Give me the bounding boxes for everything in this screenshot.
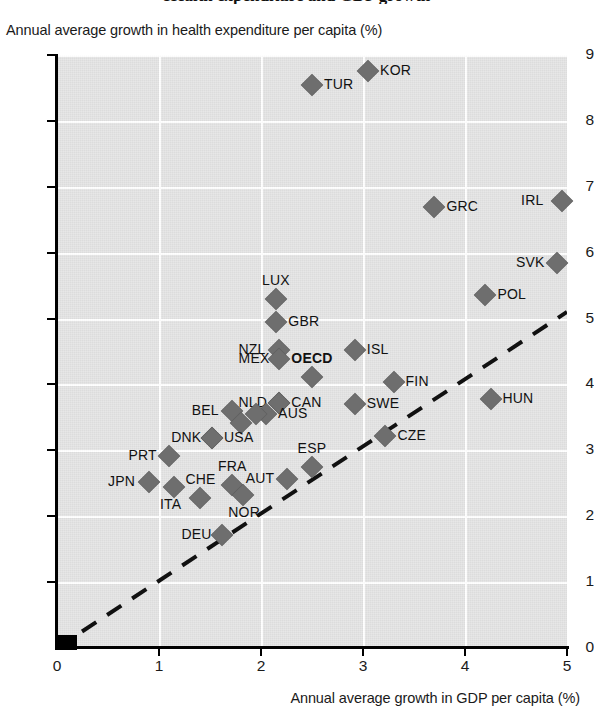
y-axis-tick (47, 515, 56, 517)
data-point-label-swe: SWE (367, 395, 400, 411)
x-axis-tick (260, 647, 262, 656)
y-axis-tick-label: 4 (552, 374, 594, 392)
data-point-label-esp: ESP (298, 440, 327, 456)
figure-scatter-health-gdp: Health expenditure and GDP growth Annual… (0, 0, 594, 720)
gridline-horizontal (57, 253, 567, 255)
gridline-horizontal (57, 582, 567, 584)
y-axis-tick-label: 1 (552, 572, 594, 590)
gridline-vertical (465, 55, 467, 648)
x-axis-tick (158, 647, 160, 656)
data-point-label-aut: AUT (246, 470, 275, 486)
y-axis-tick (47, 581, 56, 583)
y-axis-tick-label: 2 (552, 506, 594, 524)
x-axis-tick-label: 3 (343, 657, 383, 675)
data-point-label-cze: CZE (397, 427, 426, 443)
x-axis-tick (464, 647, 466, 656)
data-point-label-aus: AUS (278, 405, 307, 421)
y-axis-tick-label: 5 (552, 309, 594, 327)
data-point-label-jpn: JPN (108, 473, 135, 489)
data-point-label-lux: LUX (262, 272, 290, 288)
x-axis-tick-label: 4 (445, 657, 485, 675)
y-axis-tick (47, 120, 56, 122)
data-point-label-ita: ITA (160, 496, 181, 512)
y-axis-line (55, 54, 58, 649)
data-point-label-prt: PRT (128, 447, 156, 463)
gridline-horizontal (57, 55, 567, 57)
data-point-label-fin: FIN (406, 373, 429, 389)
x-axis-title: Annual average growth in GDP per capita … (0, 690, 580, 706)
y-axis-tick-label: 0 (552, 638, 594, 656)
y-axis-tick (47, 252, 56, 254)
x-axis-line (55, 646, 569, 649)
data-point-label-gbr: GBR (288, 313, 319, 329)
data-point-label-tur: TUR (324, 76, 353, 92)
data-point-label-deu: DEU (181, 526, 211, 542)
data-point-label-pol: POL (497, 286, 526, 302)
y-axis-tick (47, 318, 56, 320)
gridline-horizontal (57, 516, 567, 518)
x-axis-tick (362, 647, 364, 656)
x-axis-tick-label: 2 (241, 657, 281, 675)
data-point-label-svk: SVK (516, 254, 545, 270)
data-point-label-grc: GRC (446, 198, 478, 214)
y-axis-tick (47, 54, 56, 56)
y-axis-title: Annual average growth in health expendit… (6, 22, 382, 38)
y-axis-tick-label: 8 (552, 111, 594, 129)
y-axis-tick (47, 449, 56, 451)
data-point-label-nor: NOR (228, 504, 260, 520)
gridline-horizontal (57, 121, 567, 123)
data-point-label-fra: FRA (218, 458, 247, 474)
x-axis-tick-label: 0 (37, 657, 77, 675)
gridline-vertical (159, 55, 161, 648)
y-axis-tick (47, 186, 56, 188)
y-axis-tick-label: 9 (552, 45, 594, 63)
data-point-label-kor: KOR (380, 62, 411, 78)
data-point-label-che: CHE (185, 471, 215, 487)
data-point-label-hun: HUN (503, 390, 534, 406)
x-axis-tick-label: 1 (139, 657, 179, 675)
y-axis-tick (47, 383, 56, 385)
data-point-label-bel: BEL (192, 402, 219, 418)
data-point-label-irl: IRL (521, 192, 543, 208)
x-axis-tick (566, 647, 568, 656)
data-point-label-usa: USA (224, 429, 253, 445)
data-point-label-isl: ISL (367, 341, 389, 357)
data-point-label-oecd: OECD (291, 350, 332, 366)
y-axis-tick-label: 3 (552, 440, 594, 458)
y-axis-tick-label: 7 (552, 177, 594, 195)
x-axis-tick-label: 5 (547, 657, 587, 675)
data-point-label-dnk: DNK (171, 429, 201, 445)
gridline-horizontal (57, 187, 567, 189)
figure-title: Health expenditure and GDP growth (0, 0, 594, 4)
data-point-label-mex: MEX (239, 350, 270, 366)
